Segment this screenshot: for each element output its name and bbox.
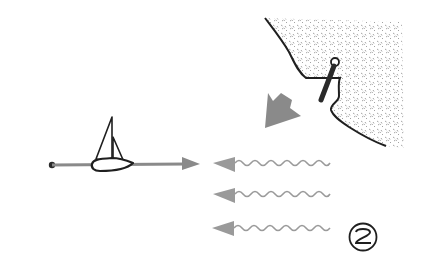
wave-arrow [213,157,330,172]
step-number-badge [350,224,377,251]
shoreline [265,18,404,148]
arrowhead-icon [182,157,200,170]
wave-arrow [212,221,330,236]
wave-arrow [213,188,330,203]
sailboat-icon [92,117,133,171]
diagram-canvas [0,0,432,266]
wind-arrow-icon [265,93,301,128]
wave-arrows [212,157,330,236]
